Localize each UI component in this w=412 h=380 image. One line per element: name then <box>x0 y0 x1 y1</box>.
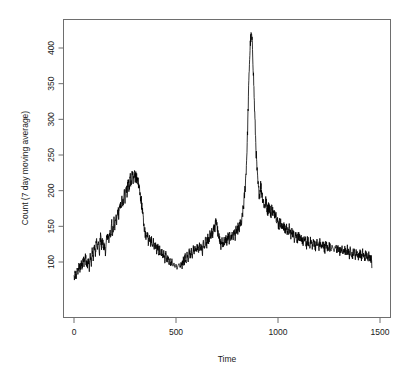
y-tick-label: 200 <box>46 183 56 197</box>
timeseries-plot: 100150200250300350400 050010001500 Time … <box>0 0 412 380</box>
x-tick-label: 0 <box>72 327 77 337</box>
y-tick-label: 100 <box>46 255 56 269</box>
y-tick-label: 150 <box>46 219 56 233</box>
y-tick-label: 250 <box>46 148 56 162</box>
y-tick-label: 300 <box>46 112 56 126</box>
chart-canvas: 100150200250300350400 050010001500 Time … <box>0 0 412 380</box>
x-axis-title: Time <box>218 354 237 364</box>
x-tick-label: 500 <box>169 327 183 337</box>
y-axis-title: Count (7 day moving average) <box>20 111 30 226</box>
plot-background <box>0 0 412 380</box>
y-tick-label: 350 <box>46 76 56 90</box>
y-tick-label: 400 <box>46 41 56 55</box>
x-tick-label: 1500 <box>371 327 390 337</box>
x-tick-label: 1000 <box>269 327 288 337</box>
